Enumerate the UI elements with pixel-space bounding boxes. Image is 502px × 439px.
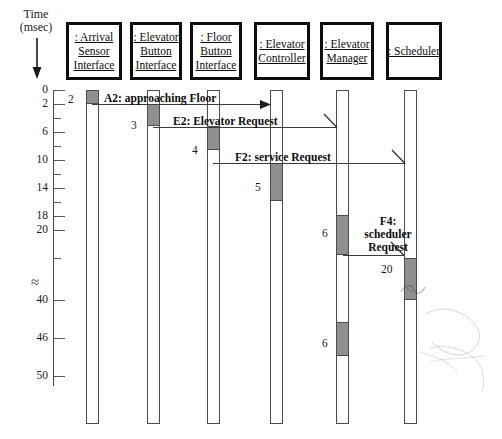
time-axis-tick-label: 18 (14, 210, 48, 221)
time-axis-tick (54, 258, 61, 259)
time-axis-tick-label: 20 (14, 224, 48, 235)
time-axis-tick (54, 132, 65, 133)
message-arrowhead-A2 (256, 97, 272, 113)
activation-bar-floor-button-interface (207, 126, 220, 150)
message-label-F2: F2: service Request (235, 151, 331, 164)
time-axis-tick (54, 202, 61, 203)
object-box-elevator-manager[interactable]: : ElevatorManager (320, 22, 374, 80)
axis-break-icon: ≈ (31, 276, 39, 288)
object-box-elevator-button-interface[interactable]: : ElevatorButtonInterface (130, 22, 182, 80)
object-box-floor-button-interface[interactable]: : FloorButtonInterface (190, 22, 242, 80)
activation-bar-elevator-manager (336, 322, 349, 356)
sequence-diagram-canvas: Time (msec) 02610141820404650 ≈ : Arriva… (0, 0, 502, 439)
time-axis-tick (54, 104, 65, 105)
time-axis-line (53, 90, 54, 386)
object-box-label: Sensor (78, 44, 109, 58)
time-axis-tick-label: 14 (14, 182, 48, 193)
time-axis-tick-label: 6 (14, 126, 48, 137)
object-box-elevator-controller[interactable]: : ElevatorController (254, 22, 310, 80)
activation-bar-scheduler (404, 258, 417, 300)
object-box-label: Interface (136, 58, 177, 72)
time-axis-tick-label: 46 (14, 332, 48, 343)
sequence-number: 3 (131, 119, 137, 131)
sequence-number: 6 (322, 227, 328, 239)
time-axis-tick-label: 2 (14, 98, 48, 109)
sequence-number: 6 (322, 337, 328, 349)
time-axis-tick (54, 90, 65, 91)
object-box-arrival-sensor-interface[interactable]: : ArrivalSensorInterface (66, 22, 122, 80)
time-axis-tick-label: 10 (14, 154, 48, 165)
lifeline-elevator-button-interface (147, 90, 160, 424)
sequence-number: 2 (68, 93, 74, 105)
time-axis-tick (54, 216, 65, 217)
activation-bar-arrival-sensor-interface (86, 90, 99, 104)
time-axis-tick (54, 118, 61, 119)
time-axis-tick (54, 188, 65, 189)
lifeline-elevator-controller (270, 90, 283, 424)
lifeline-elevator-manager (336, 90, 349, 424)
object-box-label: : Elevator (259, 37, 304, 51)
object-box-label: : Elevator (324, 37, 369, 51)
sequence-number: 5 (255, 181, 261, 193)
time-axis-tick-label: 50 (14, 370, 48, 381)
message-arrowhead-E2 (323, 120, 339, 136)
time-axis-tick-label: 0 (14, 84, 48, 95)
object-box-label: Controller (258, 51, 305, 65)
time-axis-tick (54, 230, 65, 231)
object-box-label: Interface (196, 58, 237, 72)
object-box-label: Manager (327, 51, 368, 65)
time-axis-tick (54, 376, 65, 377)
sequence-number: 4 (192, 144, 198, 156)
time-axis-tick (54, 338, 65, 339)
lifeline-arrival-sensor-interface (86, 90, 99, 424)
activation-bar-elevator-controller (270, 163, 283, 201)
message-label-line: Request (355, 241, 421, 254)
time-axis-tick (54, 300, 65, 301)
object-box-label: Button (140, 44, 171, 58)
activation-bar-elevator-manager (336, 215, 349, 255)
message-label-E2: E2: Elevator Request (173, 115, 278, 128)
time-axis-title-line2: (msec) (8, 21, 64, 34)
object-box-label: : Scheduler (388, 44, 440, 58)
message-label-A2: A2: approaching Floor (104, 92, 216, 105)
message-label-line: scheduler (355, 228, 421, 241)
time-axis-title: Time (msec) (8, 8, 64, 34)
object-box-label: Interface (74, 58, 115, 72)
message-arrowhead-F2 (391, 156, 407, 172)
activation-bar-elevator-button-interface (147, 104, 160, 126)
time-axis-tick (54, 146, 61, 147)
sequence-number: 20 (381, 263, 393, 275)
scan-smudge-artifact (420, 300, 498, 400)
time-axis-tick (54, 160, 65, 161)
time-direction-arrow-icon (30, 38, 44, 80)
message-label-F4: F4:schedulerRequest (355, 215, 421, 254)
time-axis-tick (54, 174, 61, 175)
time-axis-tick-label: 40 (14, 294, 48, 305)
object-box-label: : Elevator (133, 30, 178, 44)
object-box-label: Button (200, 44, 231, 58)
message-label-line: F4: (355, 215, 421, 228)
object-box-scheduler[interactable]: : Scheduler (386, 22, 442, 80)
scan-streak-artifact (428, 352, 488, 368)
object-box-label: : Floor (201, 30, 232, 44)
object-box-label: : Arrival (75, 30, 114, 44)
